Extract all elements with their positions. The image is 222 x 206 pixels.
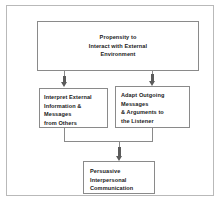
node-persuasive-communication-line-3: Communication	[90, 184, 154, 193]
node-propensity-line-3: Environment	[100, 50, 135, 59]
arrow-down-to-interpret-external-icon	[61, 76, 68, 87]
connector-right-drop	[152, 128, 153, 142]
node-interpret-external: Interpret External Information & Message…	[39, 88, 108, 128]
node-persuasive-communication-line-2: Interpersonal	[90, 176, 154, 185]
node-persuasive-communication-line-1: Persuasive	[90, 167, 154, 176]
node-interpret-external-line-1: Interpret External	[44, 93, 107, 102]
node-interpret-external-line-4: from Others	[44, 119, 107, 128]
node-propensity: Propensity to Interact with External Env…	[37, 21, 199, 71]
node-propensity-line-1: Propensity to	[100, 33, 137, 42]
node-adapt-outgoing: Adapt Outgoing Messages & Arguments to t…	[115, 86, 190, 128]
node-adapt-outgoing-line-1: Adapt Outgoing	[121, 91, 189, 100]
node-interpret-external-line-2: Information &	[44, 102, 107, 111]
node-propensity-line-2: Interact with External	[89, 42, 147, 51]
diagram-frame: Propensity to Interact with External Env…	[6, 5, 214, 196]
arrow-down-to-persuasive-communication-icon	[116, 147, 123, 161]
node-persuasive-communication: Persuasive Interpersonal Communication	[83, 161, 155, 194]
node-interpret-external-line-3: Messages	[44, 110, 107, 119]
node-adapt-outgoing-line-2: Messages	[121, 100, 189, 109]
connector-merge-bus	[64, 141, 153, 142]
connector-left-drop	[64, 128, 65, 142]
node-adapt-outgoing-line-4: the Listener	[121, 117, 189, 126]
node-adapt-outgoing-line-3: & Arguments to	[121, 108, 189, 117]
flowchart-diagram: Propensity to Interact with External Env…	[0, 0, 222, 206]
arrow-down-to-adapt-outgoing-icon	[149, 74, 156, 86]
